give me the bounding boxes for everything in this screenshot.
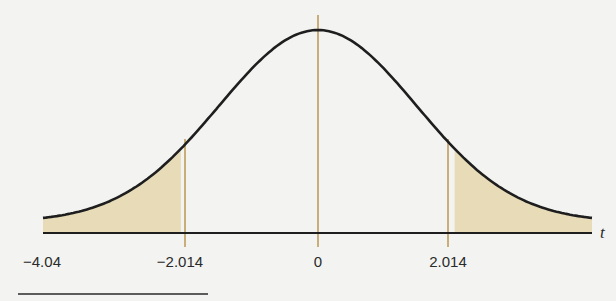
tick-label-min: −4.04 [23, 253, 61, 270]
tick-label-right-critical: 2.014 [429, 253, 467, 270]
right-tail-shade [455, 149, 592, 233]
t-distribution-chart: t −4.04 −2.014 0 2.014 [0, 0, 616, 301]
left-tail-shade [43, 149, 181, 233]
tick-label-zero: 0 [314, 253, 322, 270]
tick-label-left-critical: −2.014 [157, 253, 203, 270]
axis-variable-label: t [600, 223, 606, 242]
